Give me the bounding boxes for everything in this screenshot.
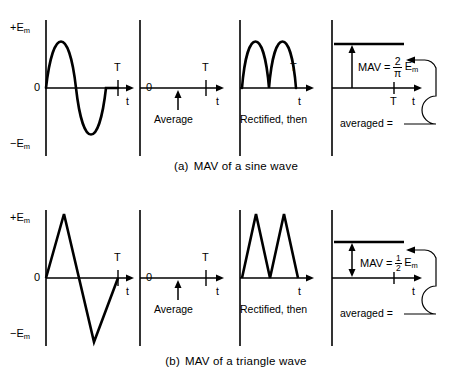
label-time-t: t (412, 286, 415, 297)
label-average-note: Average (154, 304, 193, 315)
mav-formula-sine: MAV = 2 π Em (358, 56, 418, 79)
rectified-sine-curve (242, 42, 296, 89)
caption-triangle: (b)MAV of a triangle wave (0, 355, 472, 367)
mav-fraction: 2 π (393, 56, 402, 79)
triangle-result-plot (332, 198, 472, 358)
panel-sine-average: 0 T t Average (140, 8, 240, 168)
label-zero: 0 (34, 272, 40, 283)
caption-text: MAV of a triangle wave (185, 355, 307, 367)
label-zero: 0 (146, 272, 152, 283)
label-plus-em: +Em (10, 212, 30, 224)
panel-sine-result: MAV = 2 π Em T t averaged = (332, 8, 472, 168)
x-axis-arrowhead (216, 275, 224, 282)
caption-sine: (a)MAV of a sine wave (0, 160, 472, 172)
x-axis-arrowhead (126, 85, 134, 92)
mav-label: MAV = (358, 62, 391, 73)
label-zero: 0 (34, 82, 40, 93)
label-rectified-note: Rectified, then (240, 304, 307, 315)
rectified-triangle-curve (242, 214, 298, 278)
panel-sine-rectified: T t Rectified, then (240, 8, 332, 168)
rectified-triangle-plot (240, 198, 332, 358)
label-zero: 0 (146, 82, 152, 93)
label-period-t: T (290, 62, 297, 73)
label-averaged-note: averaged = (340, 118, 393, 129)
figure-row-sine: +Em 0 −Em T t 0 T t Average (0, 8, 472, 168)
mav-arrow-head-up (349, 243, 356, 251)
x-axis-arrowhead (414, 85, 422, 92)
label-period-t: T (202, 62, 209, 73)
caption-text: MAV of a sine wave (194, 160, 298, 172)
label-minus-em: −Em (10, 138, 30, 150)
mav-symbol: Em (405, 61, 419, 73)
callout-arrowhead (406, 247, 415, 254)
mav-arrow-head-down (349, 269, 356, 277)
label-averaged-note: averaged = (340, 308, 393, 319)
caption-tag: (b) (165, 355, 180, 367)
panel-triangle-result: MAV = 1 2 Em t averaged = (332, 198, 472, 358)
label-average-note: Average (154, 114, 193, 125)
label-period-t: T (390, 96, 397, 107)
panel-triangle-rectified: t Rectified, then (240, 198, 332, 358)
label-time-t: t (216, 286, 219, 297)
triangle-average-plot (140, 198, 240, 358)
x-axis-arrowhead (126, 275, 134, 282)
mav-arrow-head-up (349, 45, 356, 53)
average-pointer-arrowhead (175, 280, 182, 288)
mav-figure: +Em 0 −Em T t 0 T t Average (0, 0, 472, 383)
x-axis-arrowhead (306, 275, 314, 282)
sine-result-plot (332, 8, 472, 168)
mav-denominator: π (393, 67, 402, 79)
figure-row-triangle: +Em 0 −Em T t 0 T t Average (0, 198, 472, 358)
label-time-t: t (412, 96, 415, 107)
label-time-t: t (298, 286, 301, 297)
mav-fraction: 1 2 (395, 254, 402, 273)
label-period-t: T (202, 252, 209, 263)
mav-symbol: Em (404, 257, 418, 269)
x-axis-arrowhead (306, 85, 314, 92)
x-axis-arrowhead (414, 275, 422, 282)
label-time-t: t (126, 96, 129, 107)
label-minus-em: −Em (10, 328, 30, 340)
mav-label: MAV = (360, 258, 393, 269)
mav-denominator: 2 (395, 263, 402, 273)
label-period-t: T (114, 252, 121, 263)
rectified-sine-plot (240, 8, 332, 168)
panel-triangle-average: 0 T t Average (140, 198, 240, 358)
mav-formula-triangle: MAV = 1 2 Em (360, 254, 418, 273)
label-time-t: t (126, 286, 129, 297)
caption-tag: (a) (174, 160, 189, 172)
label-time-t: t (216, 96, 219, 107)
panel-sine-waveform: +Em 0 −Em T t (22, 8, 140, 168)
label-rectified-note: Rectified, then (240, 114, 307, 125)
panel-triangle-waveform: +Em 0 −Em T t (22, 198, 140, 358)
average-pointer-arrowhead (175, 90, 182, 98)
label-plus-em: +Em (10, 22, 30, 34)
label-time-t: t (298, 96, 301, 107)
mav-numerator: 1 (395, 254, 402, 263)
mav-numerator: 2 (394, 56, 402, 67)
x-axis-arrowhead (216, 85, 224, 92)
sine-average-plot (140, 8, 240, 168)
label-period-t: T (114, 62, 121, 73)
